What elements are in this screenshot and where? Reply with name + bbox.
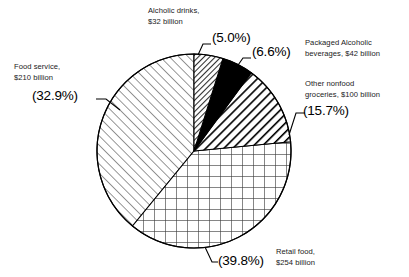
slice-label-alcoholic-drinks: Alcholic drinks, $32 billion: [148, 6, 199, 27]
slice-label-food-service-line2: $210 billion: [14, 73, 60, 84]
slice-label-other-nonfood-groceries: Other nonfood groceries, $100 billion: [305, 79, 380, 100]
slice-label-other-nonfood-line1: Other nonfood: [305, 79, 380, 90]
leader-line-alcoholic-drinks: [198, 44, 211, 55]
slice-label-retail-food-line2: $254 billion: [276, 258, 315, 269]
slice-label-alcoholic-drinks-line2: $32 billion: [148, 17, 199, 28]
leader-line-retail-food: [205, 247, 218, 262]
slice-percent-other-nonfood-groceries: (15.7%): [303, 103, 349, 118]
slice-label-packaged-alcoholic-line2: beverages, $42 billion: [305, 49, 380, 60]
slice-label-food-service: Food service, $210 billion: [14, 62, 60, 83]
slice-label-other-nonfood-line2: groceries, $100 billion: [305, 90, 380, 101]
slice-percent-alcoholic-drinks: (5.0%): [212, 30, 251, 45]
slice-label-retail-food: Retail food, $254 billion: [276, 247, 315, 268]
slice-label-food-service-line1: Food service,: [14, 62, 60, 73]
slice-label-packaged-alcoholic-line1: Packaged Alcoholic: [305, 38, 380, 49]
slice-label-alcoholic-drinks-line1: Alcholic drinks,: [148, 6, 199, 17]
slice-percent-retail-food: (39.8%): [218, 253, 264, 268]
slice-percent-food-service: (32.9%): [32, 88, 78, 103]
pie-chart-figure: Alcholic drinks, $32 billion (5.0%) Pack…: [0, 0, 409, 277]
slice-label-retail-food-line1: Retail food,: [276, 247, 315, 258]
slice-label-packaged-alcoholic-beverages: Packaged Alcoholic beverages, $42 billio…: [305, 38, 380, 59]
slice-percent-packaged-alcoholic-beverages: (6.6%): [252, 44, 291, 59]
